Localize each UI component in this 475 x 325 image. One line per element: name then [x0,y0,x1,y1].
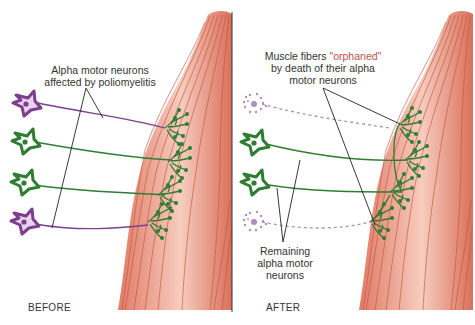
affected-neuron-icon [11,209,39,234]
remaining-neurons-label: Remaining alpha motor neurons [250,245,320,281]
before-caption: BEFORE [28,302,71,313]
healthy-neuron-icon [12,129,40,154]
healthy-neuron-icon [11,170,39,195]
before-pointer-lines [52,88,103,228]
affected-neurons-label: Alpha motor neurons affected by poliomye… [40,64,160,88]
before-neurons [11,91,41,234]
healthy-neuron-icon [241,130,269,155]
after-caption: AFTER [266,302,300,313]
dead-neuron-icon [243,93,267,113]
dead-neuron-icon [243,211,267,231]
after-neurons [241,93,269,231]
healthy-neuron-icon [241,170,269,195]
affected-neuron-icon [13,91,41,116]
orphaned-fibers-label: Muscle fibers "orphaned" by death of the… [258,50,388,86]
diagram-canvas [0,0,475,325]
